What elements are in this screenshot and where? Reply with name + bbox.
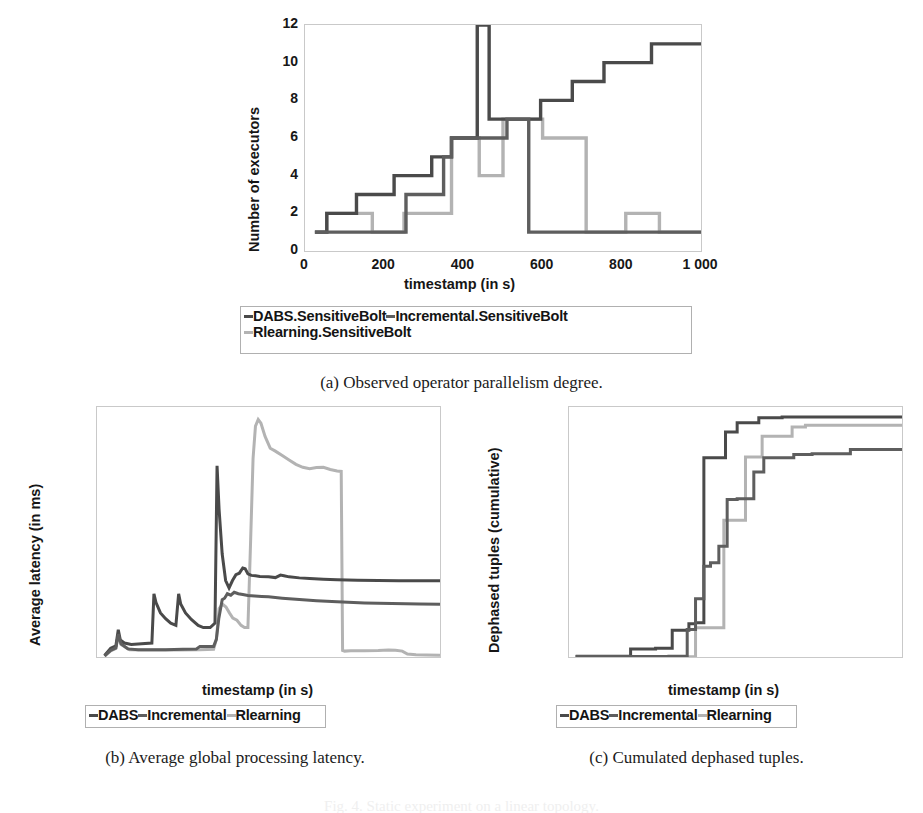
legend-label: Rlearning: [236, 707, 301, 723]
series-line: [105, 420, 440, 657]
panel-a-plot-area: [304, 24, 702, 252]
panel-c-dephased: Dephased tuples (cumulative) 05001 0001 …: [470, 400, 923, 780]
legend-label: DABS: [569, 707, 609, 723]
panel-c-lines: [569, 407, 902, 657]
figure-page: Number of executors 024681012 0200400600…: [0, 0, 923, 813]
subcaption-b: (b) Average global processing latency.: [0, 748, 470, 768]
legend-swatch-icon: [89, 714, 98, 717]
x-tick-label: 1 000: [660, 256, 740, 272]
y-tick-label: 6: [184, 128, 304, 144]
legend-row: Rlearning.SensitiveBolt: [244, 324, 688, 340]
panel-b-plot-area: [96, 406, 441, 658]
legend-item-incremental-sensitivebolt[interactable]: Incremental.SensitiveBolt: [386, 308, 567, 324]
y-tick-label: 4: [184, 166, 304, 182]
legend-label: Rlearning: [707, 707, 772, 723]
panel-c-y-axis-title: Dephased tuples (cumulative): [486, 448, 502, 653]
legend-swatch-icon: [244, 315, 253, 318]
legend-item-incremental[interactable]: Incremental: [609, 707, 697, 723]
series-line: [576, 450, 902, 657]
x-tick-label: 800: [581, 256, 661, 272]
figure-caption: Fig. 4. Static experiment on a linear to…: [0, 798, 923, 813]
legend-swatch-icon: [244, 331, 253, 334]
legend-item-dabs[interactable]: DABS: [89, 707, 138, 723]
series-line: [105, 466, 440, 656]
legend-item-rlearning[interactable]: Rlearning: [698, 707, 772, 723]
legend-item-incremental[interactable]: Incremental: [138, 707, 226, 723]
panel-a-parallelism: Number of executors 024681012 0200400600…: [0, 0, 923, 400]
panel-b-y-axis-title: Average latency (in ms): [27, 484, 43, 646]
legend-swatch-icon: [227, 714, 236, 717]
legend-label: Rlearning.SensitiveBolt: [253, 324, 411, 340]
legend-label: DABS.SensitiveBolt: [253, 308, 386, 324]
legend-row: DABS Incremental Rlearning: [89, 707, 322, 723]
x-tick-label: 0: [264, 256, 344, 272]
x-tick-label: 200: [343, 256, 423, 272]
x-tick-label: 400: [422, 256, 502, 272]
panel-b-legend: DABS Incremental Rlearning: [85, 705, 326, 728]
series-line: [576, 425, 902, 656]
legend-swatch-icon: [138, 714, 147, 717]
legend-label: DABS: [98, 707, 138, 723]
legend-row: DABS.SensitiveBolt Incremental.Sensitive…: [244, 308, 688, 324]
legend-swatch-icon: [560, 714, 569, 717]
panel-c-plot-area: [568, 406, 903, 658]
panel-c-x-axis-title: timestamp (in s): [668, 682, 779, 698]
panel-a-x-axis-title: timestamp (in s): [404, 276, 515, 292]
y-tick-label: 12: [184, 15, 304, 31]
legend-swatch-icon: [698, 714, 707, 717]
x-tick-label: 600: [502, 256, 582, 272]
panel-b-lines: [97, 407, 440, 657]
legend-item-dabs-sensitivebolt[interactable]: DABS.SensitiveBolt: [244, 308, 386, 324]
legend-item-rlearning[interactable]: Rlearning: [227, 707, 301, 723]
legend-swatch-icon: [386, 315, 395, 318]
y-tick-label: 2: [184, 203, 304, 219]
legend-label: Incremental.SensitiveBolt: [395, 308, 567, 324]
legend-row: DABS Incremental Rlearning: [560, 707, 793, 723]
y-tick-label: 10: [184, 53, 304, 69]
legend-item-rlearning-sensitivebolt[interactable]: Rlearning.SensitiveBolt: [244, 324, 411, 340]
legend-label: Incremental: [618, 707, 697, 723]
panel-a-lines: [305, 25, 701, 251]
legend-item-dabs[interactable]: DABS: [560, 707, 609, 723]
subcaption-c: (c) Cumulated dephased tuples.: [470, 748, 923, 768]
panel-b-latency: Average latency (in ms) 02004006008001 0…: [0, 400, 470, 780]
panel-c-legend: DABS Incremental Rlearning: [556, 705, 797, 728]
legend-swatch-icon: [609, 714, 618, 717]
series-line: [576, 417, 902, 656]
subcaption-a: (a) Observed operator parallelism degree…: [0, 373, 923, 393]
legend-label: Incremental: [147, 707, 226, 723]
y-tick-label: 0: [184, 241, 304, 257]
y-tick-label: 8: [184, 90, 304, 106]
panel-b-x-axis-title: timestamp (in s): [202, 682, 313, 698]
panel-a-legend: DABS.SensitiveBolt Incremental.Sensitive…: [240, 306, 692, 354]
